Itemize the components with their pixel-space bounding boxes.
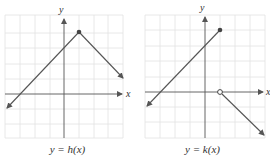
x-axis-label: x — [125, 88, 131, 99]
caption-k: y = k(x) — [135, 143, 270, 155]
graph-h-plot: x y — [0, 0, 135, 161]
open-point — [218, 90, 223, 95]
axes — [5, 19, 122, 138]
curve-h — [7, 32, 123, 108]
caption-h: y = h(x) — [0, 143, 135, 155]
graph-h: x y y = h(x) — [0, 0, 135, 161]
graph-k: x y y = k(x) — [135, 0, 270, 161]
graph-k-plot: x y — [135, 0, 270, 161]
y-axis-label: y — [199, 2, 205, 13]
closed-point — [77, 30, 82, 35]
axes — [145, 17, 263, 138]
y-axis-label: y — [58, 4, 64, 15]
closed-point — [218, 28, 223, 33]
x-axis-label: x — [265, 86, 270, 97]
